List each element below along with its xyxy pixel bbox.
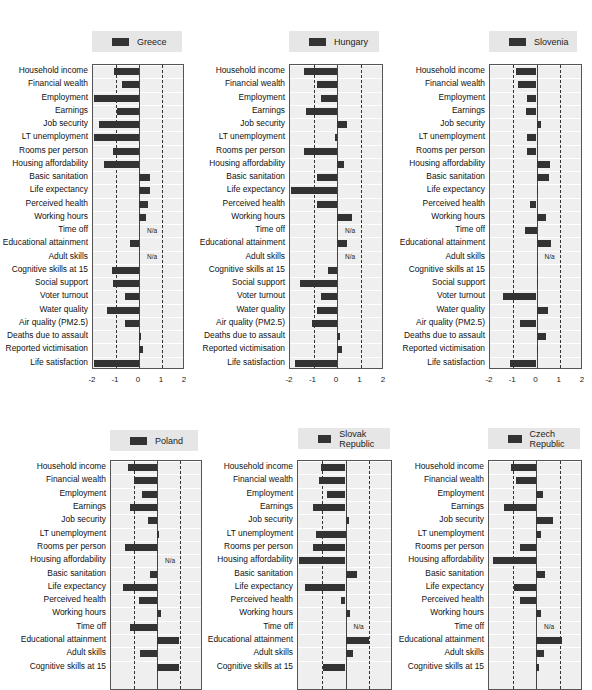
bar [537,240,552,247]
category-label: Cognitive skills at 15 [30,662,106,670]
category-label: Time off [455,225,485,233]
x-tick-label: 1 [350,375,370,384]
category-label: Life satisfaction [227,358,285,366]
category-label: Voter turnout [437,291,485,299]
row-divider [290,78,382,79]
category-label: Adult skills [245,252,285,260]
category-label: Life satisfaction [427,358,485,366]
category-label: Working hours [430,608,484,616]
bar [104,161,139,168]
x-tick-label: 2 [373,375,393,384]
row-divider [298,541,391,542]
bar [305,584,346,591]
legend-label: Slovenia [534,37,569,47]
row-divider [489,554,581,555]
category-label: Perceived health [223,199,285,207]
bar [346,610,351,617]
row-divider [490,171,581,172]
bar [518,81,537,88]
x-tick-label: -2 [479,375,499,384]
row-divider [93,343,183,344]
category-label: Basic sanitation [29,172,88,180]
x-tick-label: -1 [502,375,522,384]
bar [346,637,370,644]
bar [150,571,157,578]
bar [130,624,157,631]
row-divider [111,501,201,502]
row-divider [290,357,382,358]
row-divider [489,661,581,662]
category-label: Basic sanitation [47,569,106,577]
row-divider [93,224,183,225]
row-divider [490,304,581,305]
category-label: Deaths due to assault [404,331,485,339]
category-label: Employment [246,489,293,497]
legend-swatch [130,437,147,445]
row-divider [93,105,183,106]
bar [300,280,337,287]
row-divider [490,251,581,252]
row-divider [490,290,581,291]
bar [139,201,148,208]
row-divider [111,607,201,608]
category-label: Employment [438,93,485,101]
bar [527,148,537,155]
bar [537,161,551,168]
x-tick-label: 0 [526,375,546,384]
row-divider [298,488,391,489]
category-label: Time off [255,225,285,233]
na-label: N/a [544,623,554,630]
category-label: Life expectancy [48,582,106,590]
category-label: Voter turnout [237,291,285,299]
category-label: Earnings [73,502,106,510]
bar [299,557,346,564]
category-label: Deaths due to assault [7,331,88,339]
row-divider [490,264,581,265]
reference-line [560,65,561,368]
category-label: Basic sanitation [226,172,285,180]
row-divider [111,541,201,542]
legend-czech-republic: Czech Republic [488,428,580,449]
row-divider [298,594,391,595]
bar [536,610,541,617]
na-label: N/a [545,253,555,260]
category-label: Rooms per person [216,146,285,154]
row-divider [290,211,382,212]
bar [337,214,352,221]
bar [537,267,539,274]
bar [327,491,345,498]
category-label: Water quality [436,305,485,313]
bar [527,95,536,102]
legend-label: Greece [137,37,167,47]
bar [321,293,337,300]
category-label: Job security [248,515,293,523]
row-divider [298,621,391,622]
bar [537,333,546,340]
category-label: Social support [35,278,88,286]
bar [317,81,337,88]
reference-line [560,461,561,689]
bar [520,597,536,604]
row-divider [489,607,581,608]
row-divider [93,118,183,119]
category-label: Perceived health [44,595,106,603]
plot-area: N/a [110,460,202,690]
bar [113,148,139,155]
category-label: Air quality (PM2.5) [19,318,88,326]
category-label: Air quality (PM2.5) [216,318,285,326]
category-label: LT unemployment [219,132,285,140]
row-divider [290,264,382,265]
bar [536,650,544,657]
reference-line [513,461,514,689]
category-label: Educational attainment [3,238,88,246]
bar [313,504,346,511]
plot-area: N/aN/a [289,64,383,369]
row-divider [93,198,183,199]
na-label: N/a [354,623,364,630]
category-label: Rooms per person [224,542,293,550]
bar [316,531,346,538]
row-divider [298,514,391,515]
reference-line [513,65,514,368]
row-divider [111,581,201,582]
row-divider [490,131,581,132]
